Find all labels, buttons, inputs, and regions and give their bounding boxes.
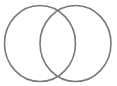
venn-diagram-svg <box>0 0 117 86</box>
venn-diagram <box>0 0 117 86</box>
